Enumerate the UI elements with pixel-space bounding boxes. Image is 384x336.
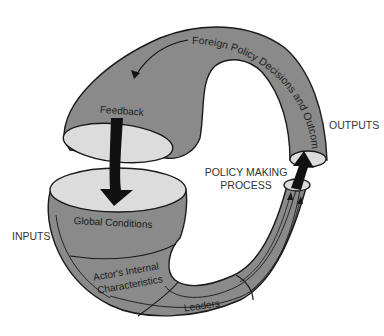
outputs-label: OUTPUTS (329, 119, 379, 131)
policy-making-label-line2: PROCESS (220, 179, 271, 191)
policy-making-label-line1: POLICY MAKING (205, 166, 288, 178)
foreign-policy-diagram: Foreign Policy Decisions and Outcomes Fe… (0, 0, 384, 336)
outputs-feedback-tube (61, 27, 327, 168)
inputs-label: INPUTS (12, 230, 51, 242)
